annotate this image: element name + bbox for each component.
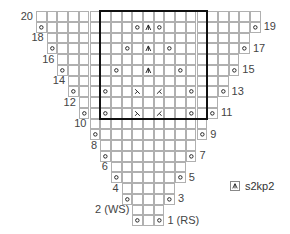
chart-cell: [122, 22, 133, 33]
k2tog-icon: [155, 87, 164, 96]
chart-cell: [164, 119, 175, 130]
chart-cell: [122, 43, 133, 54]
chart-cell: [132, 215, 143, 226]
chart-cell: [143, 33, 154, 44]
chart-cell: [229, 54, 240, 65]
chart-cell: [111, 11, 122, 22]
chart-cell: [250, 11, 261, 22]
chart-cell: [154, 11, 165, 22]
chart-cell: [111, 97, 122, 108]
chart-cell: [143, 54, 154, 65]
chart-cell: [229, 11, 240, 22]
chart-cell: [132, 86, 143, 97]
chart-cell: [132, 33, 143, 44]
row-label-7: 7: [200, 150, 206, 161]
chart-cell: [90, 65, 101, 76]
chart-cell: [47, 22, 58, 33]
chart-cell: [186, 65, 197, 76]
chart-cell: [132, 119, 143, 130]
chart-cell: [164, 151, 175, 162]
chart-cell: [164, 86, 175, 97]
chart-cell: [197, 97, 208, 108]
chart-cell: [100, 86, 111, 97]
row-label-18: 18: [31, 32, 43, 43]
chart-cell: [186, 76, 197, 87]
chart-cell: [132, 172, 143, 183]
chart-cell: [164, 183, 175, 194]
chart-cell: [90, 108, 101, 119]
chart-cell: [100, 65, 111, 76]
chart-cell: [154, 129, 165, 140]
chart-cell: [132, 129, 143, 140]
chart-cell: [175, 76, 186, 87]
chart-cell: [132, 54, 143, 65]
row-label-12: 12: [64, 97, 76, 108]
chart-cell: [186, 108, 197, 119]
chart-cell: [122, 76, 133, 87]
chart-cell: [175, 162, 186, 173]
chart-cell: [207, 108, 218, 119]
chart-cell: [132, 162, 143, 173]
chart-cell: [79, 97, 90, 108]
chart-cell: [143, 215, 154, 226]
yo-icon: [230, 66, 239, 75]
chart-cell: [90, 97, 101, 108]
chart-cell: [47, 11, 58, 22]
chart-cell: [175, 43, 186, 54]
chart-cell: [164, 194, 175, 205]
chart-cell: [143, 86, 154, 97]
chart-cell: [111, 151, 122, 162]
chart-cell: [175, 108, 186, 119]
chart-cell: [154, 97, 165, 108]
chart-cell: [197, 119, 208, 130]
chart-cell: [197, 86, 208, 97]
chart-cell: [239, 43, 250, 54]
chart-cell: [175, 97, 186, 108]
chart-cell: [79, 33, 90, 44]
chart-cell: [100, 11, 111, 22]
chart-cell: [111, 43, 122, 54]
chart-cell: [111, 54, 122, 65]
row-label-8: 8: [91, 140, 97, 151]
chart-cell: [143, 140, 154, 151]
chart-cell: [122, 151, 133, 162]
ssk-icon: [133, 109, 142, 118]
chart-cell: [79, 76, 90, 87]
chart-cell: [111, 108, 122, 119]
chart-cell: [122, 129, 133, 140]
chart-cell: [186, 43, 197, 54]
chart-cell: [175, 65, 186, 76]
yo-icon: [133, 23, 142, 32]
yo-icon: [251, 23, 260, 32]
chart-cell: [186, 33, 197, 44]
chart-cell: [143, 162, 154, 173]
s2kp2-icon: [144, 66, 153, 75]
chart-cell: [207, 86, 218, 97]
chart-cell: [197, 54, 208, 65]
chart-cell: [122, 183, 133, 194]
chart-cell: [111, 76, 122, 87]
chart-cell: [111, 22, 122, 33]
chart-cell: [79, 54, 90, 65]
chart-cell: [132, 183, 143, 194]
yo-icon: [208, 109, 217, 118]
chart-cell: [164, 108, 175, 119]
chart-cell: [132, 22, 143, 33]
chart-cell: [122, 162, 133, 173]
chart-cell: [143, 129, 154, 140]
chart-cell: [164, 65, 175, 76]
chart-cell: [175, 151, 186, 162]
row-label-5: 5: [189, 172, 195, 183]
chart-cell: [122, 97, 133, 108]
chart-cell: [175, 22, 186, 33]
row-label-13: 13: [232, 86, 244, 97]
chart-cell: [90, 33, 101, 44]
chart-cell: [111, 33, 122, 44]
chart-cell: [111, 140, 122, 151]
chart-cell: [143, 119, 154, 130]
chart-cell: [68, 76, 79, 87]
chart-cell: [154, 65, 165, 76]
chart-cell: [100, 129, 111, 140]
chart-cell: [207, 97, 218, 108]
row-label-3: 3: [178, 193, 184, 204]
